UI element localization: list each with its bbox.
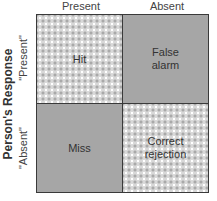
- row-label-absent: "Absent": [17, 105, 29, 191]
- column-label-present: Present: [38, 0, 124, 12]
- cell-miss: Miss: [37, 104, 123, 192]
- row-axis-title: Person's Response: [1, 34, 15, 174]
- cell-miss-label: Miss: [68, 142, 91, 155]
- column-label-absent: Absent: [124, 0, 210, 12]
- cell-false-alarm-label-line2: alarm: [152, 59, 180, 72]
- cell-false-alarm-label-line1: False: [152, 46, 179, 59]
- cell-correct-rejection: Correct rejection: [123, 104, 208, 192]
- cell-correct-rejection-label-line2: rejection: [145, 148, 187, 161]
- cell-false-alarm: False alarm: [123, 15, 208, 104]
- outcome-matrix: Hit False alarm Miss Correct rejection: [36, 14, 209, 193]
- row-label-present: "Present": [17, 15, 29, 101]
- cell-correct-rejection-label-line1: Correct: [147, 135, 183, 148]
- cell-hit: Hit: [37, 15, 123, 104]
- cell-hit-label: Hit: [73, 53, 86, 66]
